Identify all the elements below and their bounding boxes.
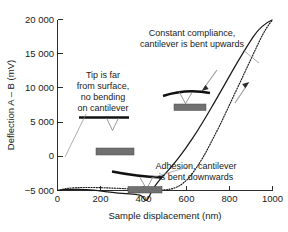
annotation-tip-far: Tip is far from surface, no bending on c…	[65, 70, 129, 157]
annotation-line: Constant compliance,	[149, 28, 236, 38]
retract-arrow	[235, 82, 249, 103]
x-tick-label: 200	[93, 193, 109, 204]
x-tick-label: 600	[179, 193, 195, 204]
y-tick-marks	[58, 20, 63, 191]
x-axis-title: Sample displacement (nm)	[109, 210, 222, 221]
cantilever-beam-up	[163, 91, 210, 96]
x-tick-labels: 0 200 400 600 800 1000	[55, 193, 283, 204]
y-axis-title: Deflection A – B (mV)	[5, 60, 16, 150]
cantilever-tip-up	[179, 92, 192, 104]
x-tick-label: 0	[55, 193, 60, 204]
sample-surface-down	[128, 187, 162, 194]
annotation-line: cantilever is bent upwards	[140, 39, 245, 49]
y-tick-label: 20 000	[25, 14, 54, 25]
annotation-adhesion: Adhesion, cantilever is bent downwards	[151, 161, 237, 182]
y-tick-label: 5 000	[30, 116, 54, 127]
y-tick-label: −5 000	[25, 185, 54, 196]
y-tick-label: 0	[49, 150, 54, 161]
cantilever-tip-flat	[107, 118, 119, 131]
direction-arrows	[202, 70, 250, 103]
annotation-line: on cantilever	[77, 103, 128, 113]
chart-canvas: 20 000 15 000 10 000 5 000 0 −5 000 0 20…	[0, 0, 288, 232]
annotation-line: Adhesion, cantilever	[155, 161, 236, 171]
annotation-line: no bending	[81, 92, 126, 102]
cantilever-flat-inset	[79, 118, 134, 156]
force-distance-chart: 20 000 15 000 10 000 5 000 0 −5 000 0 20…	[0, 0, 288, 232]
annotation-constant-compliance: Constant compliance, cantilever is bent …	[140, 28, 259, 63]
annotation-leader-compliance	[243, 50, 259, 63]
annotation-leader-tip-far	[65, 114, 86, 157]
y-tick-label: 15 000	[25, 48, 54, 59]
y-tick-label: 10 000	[25, 82, 54, 93]
cantilever-down-inset	[112, 172, 162, 194]
annotation-line: from surface,	[77, 81, 130, 91]
cantilever-up-inset	[163, 91, 210, 110]
annotation-line: Tip is far	[86, 70, 120, 80]
x-tick-label: 800	[222, 193, 238, 204]
annotation-line: is bent downwards	[159, 172, 234, 182]
y-tick-labels: 20 000 15 000 10 000 5 000 0 −5 000	[25, 14, 54, 196]
x-tick-label: 1000	[262, 193, 283, 204]
sample-surface-flat	[96, 148, 134, 155]
sample-surface-up	[174, 104, 206, 111]
approach-arrow	[202, 70, 218, 91]
